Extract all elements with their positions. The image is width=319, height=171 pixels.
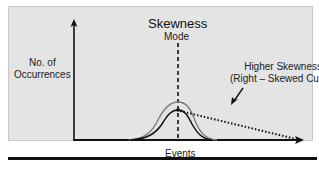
bottom-rule [8,157,317,160]
dotted-tail [180,111,300,140]
skewness-annotation: Higher Skewness (Right – Skewed Curve) [230,61,319,85]
peak-dot [176,108,180,112]
y-axis-label-line2: Occurrences [14,69,71,81]
y-axis-label-line1: No. of [14,57,71,69]
diagram-title: Skewness [148,17,207,31]
annotation-line2: (Right – Skewed Curve) [230,73,319,85]
skewed-curve [130,110,212,140]
y-axis-label: No. of Occurrences [14,57,71,81]
annotation-arrowhead-icon [231,97,238,105]
normal-curve [129,102,217,140]
annotation-line1: Higher Skewness [230,61,319,73]
annotation-arrow [234,88,243,101]
mode-label: Mode [164,31,189,42]
